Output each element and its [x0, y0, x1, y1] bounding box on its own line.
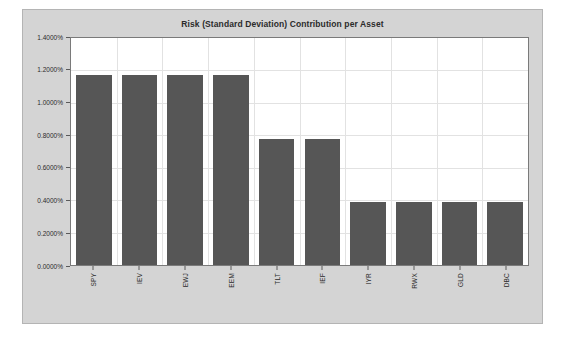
x-axis-tick: RWX: [411, 266, 418, 289]
x-axis: SPYIEVEWJEEMTLTIEFIYRRWXGLDDBC: [70, 266, 529, 323]
x-axis-tick: TLT: [273, 266, 280, 285]
y-axis-tick: 0.6000%: [37, 163, 70, 173]
x-axis-tick-mark: [138, 266, 139, 270]
bar-dbc: [487, 202, 523, 265]
x-axis-tick-label: EWJ: [181, 273, 188, 287]
x-axis-tick-mark: [506, 266, 507, 270]
chart-title: Risk (Standard Deviation) Contribution p…: [23, 19, 542, 29]
y-axis-tick: 1.4000%: [37, 32, 70, 42]
x-axis-tick-mark: [460, 266, 461, 270]
y-axis-tick: 1.0000%: [37, 97, 70, 107]
y-axis-tick: 0.2000%: [37, 228, 70, 238]
x-axis-tick: SPY: [89, 266, 96, 287]
bar-ewj: [167, 75, 203, 265]
x-axis-tick-label: IEF: [319, 273, 326, 284]
y-axis-tick: 0.8000%: [37, 130, 70, 140]
bar-tlt: [259, 139, 295, 265]
x-axis-tick-label: IYR: [365, 273, 372, 284]
y-axis-tick-label: 1.0000%: [37, 99, 66, 106]
x-axis-tick-label: GLD: [457, 273, 464, 287]
y-axis-tick-label: 1.2000%: [37, 66, 66, 73]
y-axis-tick-label: 0.4000%: [37, 197, 66, 204]
y-axis-tick: 1.2000%: [37, 65, 70, 75]
x-axis-tick-mark: [230, 266, 231, 270]
y-axis-tick-label: 1.4000%: [37, 34, 66, 41]
bar-ief: [305, 139, 341, 265]
x-axis-tick-label: SPY: [89, 273, 96, 287]
bar-series: [71, 38, 528, 265]
bar-spy: [76, 75, 112, 265]
x-axis-tick: IEV: [135, 266, 142, 284]
y-axis-tick: 0.0000%: [37, 261, 70, 271]
x-axis-tick: IEF: [319, 266, 326, 284]
x-axis-tick: GLD: [457, 266, 464, 287]
x-axis-tick-mark: [368, 266, 369, 270]
x-axis-tick-label: EEM: [227, 273, 234, 288]
bar-gld: [442, 202, 478, 265]
x-axis-tick-mark: [92, 266, 93, 270]
plot-area: [70, 37, 529, 266]
y-axis-tick-label: 0.8000%: [37, 132, 66, 139]
x-axis-tick: EWJ: [181, 266, 188, 287]
x-axis-tick-label: IEV: [135, 273, 142, 284]
x-axis-tick-mark: [184, 266, 185, 270]
y-axis: 0.0000%0.2000%0.4000%0.6000%0.8000%1.000…: [23, 37, 70, 266]
bar-eem: [213, 75, 249, 265]
y-axis-tick-label: 0.0000%: [37, 263, 66, 270]
y-axis-tick-label: 0.6000%: [37, 164, 66, 171]
x-axis-tick-label: TLT: [273, 273, 280, 285]
x-axis-tick: IYR: [365, 266, 372, 284]
bar-iev: [122, 75, 158, 265]
y-axis-tick-label: 0.2000%: [37, 230, 66, 237]
x-axis-tick-mark: [276, 266, 277, 270]
bar-rwx: [396, 202, 432, 265]
bar-iyr: [350, 202, 386, 265]
x-axis-tick-label: DBC: [503, 273, 510, 287]
x-axis-tick-label: RWX: [411, 273, 418, 289]
x-axis-tick: EEM: [227, 266, 234, 288]
x-axis-tick-mark: [414, 266, 415, 270]
x-axis-tick: DBC: [503, 266, 510, 287]
y-axis-tick: 0.4000%: [37, 196, 70, 206]
x-axis-tick-mark: [322, 266, 323, 270]
chart-figure: Risk (Standard Deviation) Contribution p…: [22, 9, 543, 324]
